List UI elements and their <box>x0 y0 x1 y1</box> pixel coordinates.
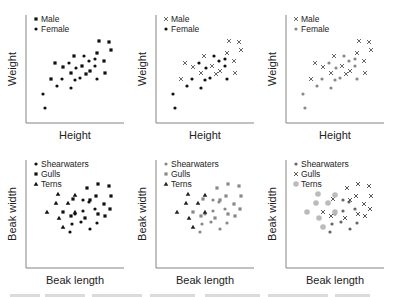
data-point <box>363 214 367 218</box>
data-point <box>211 209 214 212</box>
data-point <box>88 198 91 201</box>
data-point <box>232 59 236 63</box>
data-point <box>49 77 52 80</box>
data-point <box>321 65 325 69</box>
data-point <box>218 227 221 230</box>
data-point <box>233 214 236 217</box>
legend-label: Gulls <box>41 169 60 179</box>
data-point <box>338 76 341 79</box>
data-point <box>334 66 337 69</box>
legend-marker-icon <box>164 162 167 165</box>
data-point <box>329 214 333 218</box>
data-point <box>301 92 304 95</box>
y-axis-label: Weight <box>266 52 278 86</box>
data-point <box>197 61 200 64</box>
x-axis-label: Height <box>189 129 221 141</box>
data-point <box>72 54 75 57</box>
data-point <box>88 69 91 72</box>
data-point <box>347 59 350 62</box>
data-point <box>233 71 237 75</box>
data-point <box>367 40 371 44</box>
x-axis-label: Height <box>319 129 351 141</box>
data-point <box>185 84 188 87</box>
data-point <box>54 201 59 205</box>
data-point <box>226 182 229 185</box>
data-point <box>53 61 56 64</box>
data-point <box>353 64 356 67</box>
x-axis-label: Beak length <box>306 274 364 286</box>
data-point <box>353 57 356 60</box>
data-point <box>210 64 214 68</box>
data-point <box>354 194 358 198</box>
legend-marker-icon <box>34 27 37 30</box>
data-point <box>333 78 336 81</box>
data-point <box>73 210 78 214</box>
data-point <box>43 106 46 109</box>
data-point <box>369 48 373 52</box>
data-point <box>102 202 105 205</box>
data-point <box>74 66 77 69</box>
data-point <box>225 51 229 55</box>
data-point <box>93 207 96 210</box>
y-axis-label: Weight <box>6 52 18 86</box>
data-point <box>73 193 78 197</box>
data-point <box>239 48 243 52</box>
data-point <box>367 184 371 188</box>
data-point <box>199 86 202 89</box>
data-point <box>325 200 331 206</box>
data-point <box>190 77 193 80</box>
x-axis-label: Beak length <box>176 274 234 286</box>
data-point <box>57 216 62 220</box>
legend-marker-icon <box>34 17 37 20</box>
data-point <box>329 71 333 75</box>
data-point <box>225 221 228 224</box>
data-point <box>204 66 207 69</box>
legend-marker-icon <box>34 162 37 165</box>
data-point <box>315 191 321 197</box>
data-point <box>85 186 88 189</box>
data-point <box>93 64 96 67</box>
data-point <box>56 192 61 196</box>
data-point <box>79 220 82 223</box>
series-male <box>179 39 243 81</box>
series-female <box>171 54 228 109</box>
data-point <box>175 210 180 214</box>
y-axis-label: Beak width <box>6 187 18 241</box>
data-point <box>187 216 192 220</box>
data-point <box>84 72 87 75</box>
data-point <box>212 54 215 57</box>
legend-marker-icon <box>34 182 39 186</box>
scatter-figure: HeightWeightMaleFemale HeightWeightMaleF… <box>0 0 394 297</box>
data-point <box>339 220 342 223</box>
data-point <box>103 71 106 74</box>
data-point <box>238 207 241 210</box>
data-point <box>239 194 242 197</box>
data-point <box>70 222 73 225</box>
legend-label: Shearwaters <box>301 159 349 169</box>
data-point <box>203 210 208 214</box>
data-point <box>211 198 214 201</box>
panel-top-middle: HeightWeightMaleFemale <box>136 14 254 141</box>
data-point <box>223 64 226 67</box>
data-point <box>68 230 71 233</box>
data-point <box>340 64 344 68</box>
data-point <box>96 182 99 185</box>
data-point <box>200 222 203 225</box>
legend-marker-icon <box>294 162 297 165</box>
data-point <box>69 71 72 74</box>
data-point <box>191 210 194 213</box>
panel-bottom-middle: Beak lengthBeak widthShearwatersGullsTer… <box>136 159 254 286</box>
data-point <box>71 197 74 200</box>
data-point <box>362 202 366 206</box>
legend-label: Shearwaters <box>41 159 89 169</box>
legend-marker-icon <box>293 181 299 187</box>
data-point <box>179 77 183 81</box>
data-point <box>41 92 44 95</box>
y-axis-label: Beak width <box>136 187 148 241</box>
data-point <box>93 57 96 60</box>
data-point <box>69 214 72 217</box>
data-point <box>73 78 76 81</box>
data-point <box>357 39 361 43</box>
data-point <box>202 54 206 58</box>
series-male <box>309 39 373 81</box>
